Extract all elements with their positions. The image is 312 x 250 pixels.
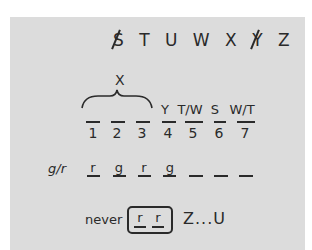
gr-row-label: g/r <box>48 161 66 176</box>
slot-line-7 <box>237 121 255 123</box>
curly-brace-icon <box>80 88 155 110</box>
position-number-7: 7 <box>235 125 255 141</box>
position-number-2: 2 <box>107 125 127 141</box>
rule-prefix: never <box>85 212 122 227</box>
position-number-4: 4 <box>158 125 178 141</box>
gr-line-5 <box>189 175 203 177</box>
rule-box-line-2 <box>152 226 164 228</box>
letter-u: U <box>165 30 182 50</box>
slot-line-6 <box>214 121 226 123</box>
brace-label: X <box>115 72 125 88</box>
letter-x: X <box>225 30 242 50</box>
slot-4-value: Y <box>155 102 175 117</box>
letter-t: T <box>139 30 154 50</box>
gr-line-3 <box>138 175 151 177</box>
gr-value-4: g <box>160 160 180 175</box>
position-number-6: 6 <box>209 125 229 141</box>
letter-z: Z <box>278 30 295 50</box>
slot-line-5 <box>185 121 203 123</box>
gr-line-7 <box>239 175 253 177</box>
gr-value-3: r <box>134 160 154 175</box>
slot-line-3 <box>136 121 150 123</box>
position-number-5: 5 <box>183 125 203 141</box>
rule-box-line-1 <box>134 226 146 228</box>
slot-line-2 <box>111 121 125 123</box>
letter-y-struck: Y <box>252 30 267 50</box>
letter-w: W <box>193 30 215 50</box>
slot-line-4 <box>162 121 176 123</box>
position-number-1: 1 <box>83 125 103 141</box>
rule-suffix: Z...U <box>183 209 226 228</box>
slot-5-value: T/W <box>177 102 203 117</box>
position-number-3: 3 <box>132 125 152 141</box>
slot-7-value: W/T <box>229 102 255 117</box>
gr-line-6 <box>214 175 228 177</box>
letter-set: S T U W X Y Z <box>113 30 295 50</box>
rule-box-value-2: r <box>148 210 168 225</box>
letter-s-struck: S <box>113 30 129 50</box>
slot-6-value: S <box>205 102 225 117</box>
gr-value-2: g <box>109 160 129 175</box>
gr-line-2 <box>113 175 126 177</box>
rule-box-value-1: r <box>130 210 150 225</box>
gr-line-1 <box>87 175 100 177</box>
gr-value-1: r <box>83 160 103 175</box>
slot-line-1 <box>86 121 100 123</box>
gr-line-4 <box>163 175 176 177</box>
